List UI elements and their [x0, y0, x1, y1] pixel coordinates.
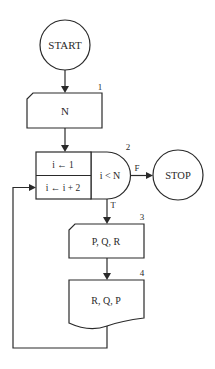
loop-node: i ← 1 i ← i + 2 i < N 2: [36, 142, 131, 199]
arrow-head-icon: [29, 184, 36, 191]
output-rqp-label: R, Q, P: [91, 295, 121, 306]
loop-condition-label: i < N: [100, 170, 121, 181]
edge-input-to-output: [103, 258, 111, 280]
arrow-head-icon: [103, 273, 111, 280]
arrow-head-icon: [146, 172, 153, 179]
stop-node: STOP: [153, 150, 203, 200]
input-n-label: N: [61, 105, 69, 117]
node-number-2: 2: [126, 142, 131, 152]
stop-label: STOP: [165, 170, 191, 181]
edge-true-to-input-pqr: T: [103, 199, 116, 224]
edge-start-to-input: [61, 70, 69, 93]
arrow-head-icon: [103, 217, 111, 224]
true-label: T: [110, 200, 116, 210]
false-label: F: [134, 163, 139, 173]
start-label: START: [48, 39, 82, 51]
node-number-1: 1: [98, 82, 103, 92]
start-node: START: [40, 20, 90, 70]
arrow-head-icon: [61, 86, 69, 93]
arrow-head-icon: [61, 145, 69, 152]
edge-input-to-loop: [61, 128, 69, 152]
loop-init-label: i ← 1: [52, 160, 74, 170]
node-number-4: 4: [140, 268, 145, 278]
input-pqr-label: P, Q, R: [92, 236, 121, 247]
node-number-3: 3: [140, 212, 145, 222]
loop-increment-label: i ← i + 2: [46, 183, 81, 193]
flowchart-canvas: START N 1 i ← 1 i ← i + 2 i < N 2 F STOP: [0, 0, 215, 369]
edge-false-to-stop: F: [131, 163, 153, 179]
